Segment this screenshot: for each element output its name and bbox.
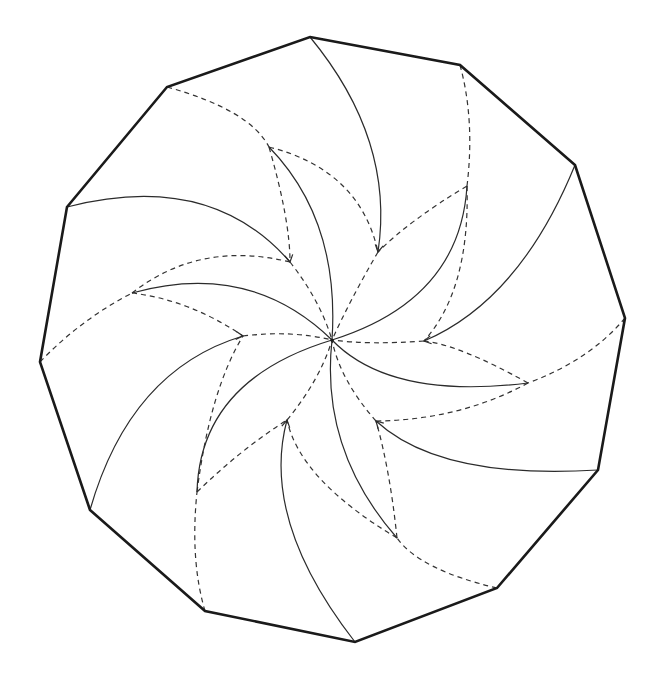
valley-fold-line [195,492,205,611]
valley-fold-line [424,341,528,383]
valley-fold-line [397,538,497,588]
valley-fold-line [376,383,528,421]
valley-fold-line [269,147,290,262]
valley-fold-line [376,421,397,538]
valley-fold-line [287,340,332,420]
mountain-fold-line [376,421,598,471]
mountain-fold-line [269,147,333,340]
mountain-fold-line [330,340,397,538]
valley-fold-line [528,318,625,383]
valley-fold-line [332,340,376,421]
center-point [330,338,333,341]
arrowhead-icon [423,336,431,345]
mountain-fold-line [67,196,290,262]
mountain-fold-line [132,283,332,340]
mountain-fold-line [332,186,467,340]
mountain-fold-line [332,340,528,387]
valley-fold-line [332,252,378,340]
valley-fold-line [378,186,467,252]
mountain-fold-line [424,165,575,341]
valley-fold-line [40,293,132,362]
valley-fold-line [460,65,470,186]
valley-fold-line [332,340,424,343]
mountain-fold-line [90,336,243,510]
fold-arrowheads [236,244,432,428]
valley-fold-line [269,147,378,252]
valley-fold-line [424,186,467,341]
valley-fold-line [132,293,243,336]
valley-fold-line [243,334,332,340]
crease-pattern-diagram [0,0,656,678]
mountain-fold-line [310,37,381,252]
arrowhead-icon [236,331,244,340]
valley-fold-line [167,87,269,147]
valley-fold-line [290,262,332,340]
mountain-fold-line [281,420,355,642]
